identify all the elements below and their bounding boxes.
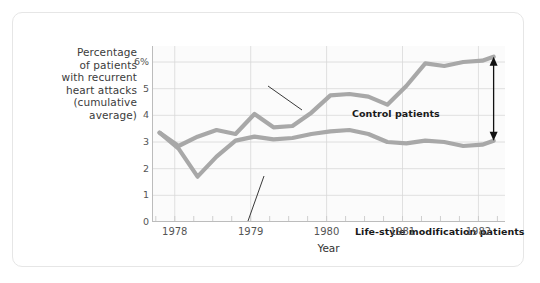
- plot-area: Control patients Life-style modification…: [152, 46, 505, 222]
- y-axis-tick-label: 3: [123, 137, 149, 147]
- y-axis-tick-labels: 0123456%: [119, 46, 149, 222]
- x-axis-tick-label: 1981: [378, 226, 428, 237]
- x-axis-tick-label: 1978: [150, 226, 200, 237]
- x-axis-tick-label: 1979: [226, 226, 276, 237]
- figure-frame: Percentage of patients with recurrent he…: [12, 12, 524, 267]
- x-axis-tick-labels: 19781979198019811982: [152, 226, 505, 240]
- x-axis-title: Year: [152, 242, 505, 254]
- arrow-down-icon: [490, 132, 498, 141]
- y-axis-tick-label: 0: [123, 217, 149, 227]
- y-axis-tick-label: 2: [123, 164, 149, 174]
- y-axis-tick-label: 6%: [123, 57, 149, 67]
- y-axis-tick-label: 1: [123, 190, 149, 200]
- x-axis-tick-label: 1980: [302, 226, 352, 237]
- y-axis-tick-label: 5: [123, 84, 149, 94]
- x-axis-tick-label: 1982: [453, 226, 503, 237]
- plot-svg: [152, 46, 505, 222]
- annotation-control-patients: Control patients: [352, 108, 440, 119]
- y-axis-tick-label: 4: [123, 110, 149, 120]
- gap-double-arrow: [490, 57, 498, 141]
